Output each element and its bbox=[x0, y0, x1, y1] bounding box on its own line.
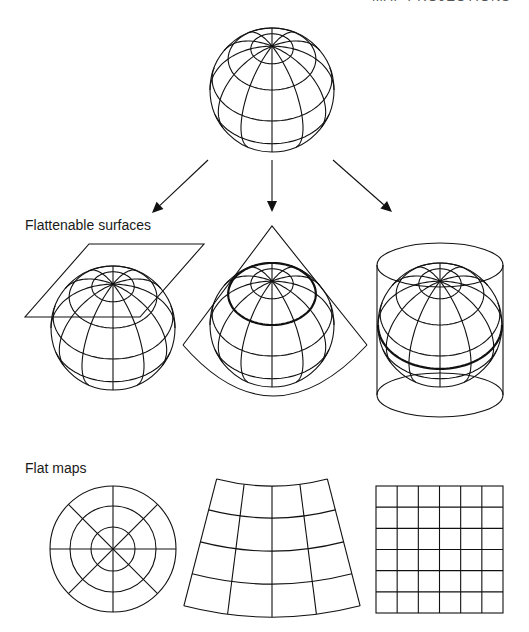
conic-parallel bbox=[217, 479, 328, 486]
planar-surface-globe bbox=[25, 244, 204, 390]
conic-meridian bbox=[184, 479, 217, 606]
meridian-line bbox=[440, 281, 502, 325]
cylindrical-surface-globe bbox=[377, 243, 503, 417]
azimuthal-flat-map bbox=[50, 486, 176, 612]
meridian-line bbox=[210, 46, 272, 90]
arrow-to-plane bbox=[160, 160, 208, 205]
meridian-line bbox=[113, 284, 144, 385]
meridian-line bbox=[51, 284, 113, 328]
meridian-line bbox=[241, 281, 272, 382]
meridian-line bbox=[272, 46, 334, 90]
meridian-line bbox=[378, 281, 440, 325]
meridian-line bbox=[272, 281, 303, 382]
meridian-line bbox=[210, 281, 272, 325]
meridian-line bbox=[82, 284, 113, 385]
meridian-line bbox=[272, 281, 334, 325]
meridian-line bbox=[241, 46, 272, 147]
conic-surface-globe bbox=[183, 226, 367, 396]
cylindrical-flat-map bbox=[376, 486, 503, 613]
conic-flat-map bbox=[184, 479, 360, 617]
arrowhead-icon bbox=[267, 201, 277, 212]
tangent-plane bbox=[25, 244, 204, 317]
conic-meridian bbox=[327, 479, 360, 606]
meridian-line bbox=[113, 284, 175, 328]
arrow-to-cylinder bbox=[333, 160, 384, 205]
projection-arrows bbox=[152, 160, 392, 213]
cone-base bbox=[183, 345, 367, 396]
map-projections-diagram bbox=[0, 0, 529, 632]
meridian-line bbox=[272, 46, 303, 147]
source-globe bbox=[210, 28, 334, 152]
